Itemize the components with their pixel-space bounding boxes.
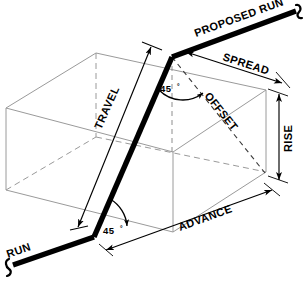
travel-tick-bottom — [70, 226, 88, 230]
box-hidden-edge-bottom-back — [6, 137, 96, 190]
advance-ext-left — [99, 244, 113, 256]
label-angle-upper: 45 ° — [160, 83, 180, 94]
rise-ext-top — [268, 89, 288, 96]
label-angle-lower-degree-sign: ° — [120, 225, 123, 232]
label-angle-upper-value: 45 — [160, 83, 172, 94]
travel-tick-top — [142, 42, 162, 50]
box-edge-front-bottom — [6, 190, 173, 232]
dimension-travel — [70, 42, 162, 230]
angle-arcs — [110, 90, 203, 226]
offset-diagram: RUN PROPOSED RUN TRAVEL OFFSET SPREAD RI… — [0, 0, 306, 283]
advance-ext-right — [264, 183, 280, 196]
rise-ext-bottom — [268, 176, 288, 183]
arc-lower-45 — [110, 199, 127, 226]
pipe-break-left — [6, 259, 11, 276]
label-rise: RISE — [282, 125, 294, 152]
label-advance: ADVANCE — [177, 202, 234, 233]
pipe-break-right — [296, 5, 302, 18]
spread-ext-right — [276, 72, 290, 88]
diagram-canvas: RUN PROPOSED RUN TRAVEL OFFSET SPREAD RI… — [0, 0, 306, 283]
label-angle-lower-value: 45 — [103, 225, 115, 236]
label-angle-upper-degree-sign: ° — [177, 83, 180, 90]
label-spread: SPREAD — [221, 50, 271, 76]
label-angle-lower: 45 ° — [103, 225, 123, 236]
pipe-run — [6, 5, 302, 276]
